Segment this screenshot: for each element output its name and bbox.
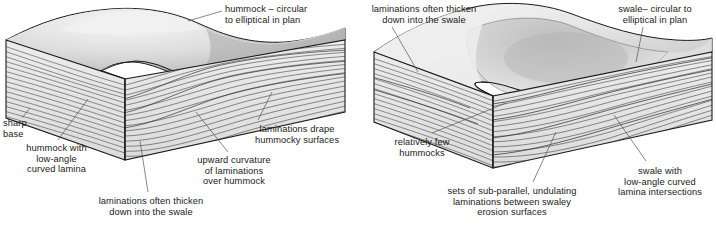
figure-hummocky-swaley-cross-stratification: hummock – circular to elliptical in plan… [0,0,716,237]
label-thicken-into-swale-right: laminations often thicken down into the … [351,4,497,25]
label-thicken-into-swale-left: laminations often thicken down into the … [78,196,224,217]
label-relatively-few-hummocks: relatively few hummocks [373,137,471,158]
label-hummock-plan: hummock – circular to elliptical in plan [225,4,307,25]
label-upward-curvature: upward curvature of laminations over hum… [182,155,286,187]
label-swale-plan: swale– circular to elliptical in plan [596,4,714,25]
label-laminations-drape: laminations drape hummocky surfaces [243,124,351,145]
label-swale-low-angle: swale with low-angle curved lamina inter… [604,166,716,198]
label-sharp-base: sharp base [3,118,27,139]
label-hummock-low-angle: hummock with low-angle curved lamina [4,143,109,175]
label-sub-parallel-sets: sets of sub-parallel, undulating laminat… [419,186,605,218]
